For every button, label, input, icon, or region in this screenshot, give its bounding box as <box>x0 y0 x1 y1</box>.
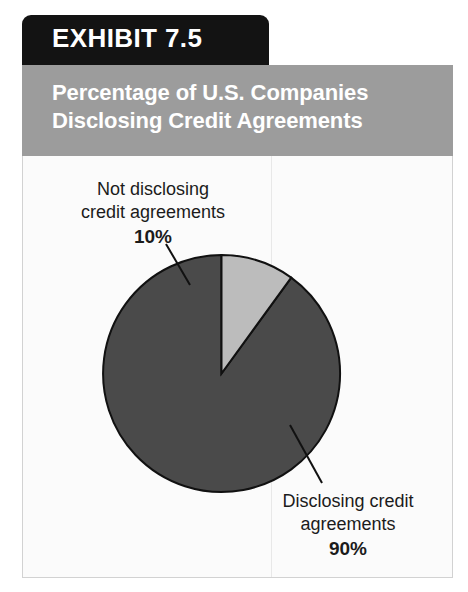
exhibit-title: Percentage of U.S. Companies Disclosing … <box>52 79 448 135</box>
callout-not-disclosing-line-2: credit agreements <box>81 202 225 222</box>
callout-disclosing-line-2: agreements <box>300 514 395 534</box>
exhibit-title-band: Percentage of U.S. Companies Disclosing … <box>22 65 453 156</box>
exhibit-title-line-1: Percentage of U.S. Companies <box>52 80 368 105</box>
callout-not-disclosing-percent: 10% <box>48 225 258 248</box>
exhibit-figure: EXHIBIT 7.5 Percentage of U.S. Companies… <box>0 0 468 592</box>
callout-disclosing: Disclosing credit agreements 90% <box>248 490 448 560</box>
callout-not-disclosing: Not disclosing credit agreements 10% <box>48 178 258 248</box>
exhibit-number-label: EXHIBIT 7.5 <box>52 23 202 54</box>
exhibit-title-line-2: Disclosing Credit Agreements <box>52 107 448 135</box>
callout-disclosing-line-1: Disclosing credit <box>282 491 413 511</box>
callout-not-disclosing-line-1: Not disclosing <box>97 179 209 199</box>
callout-disclosing-percent: 90% <box>248 537 448 560</box>
exhibit-number-tab: EXHIBIT 7.5 <box>22 15 269 66</box>
